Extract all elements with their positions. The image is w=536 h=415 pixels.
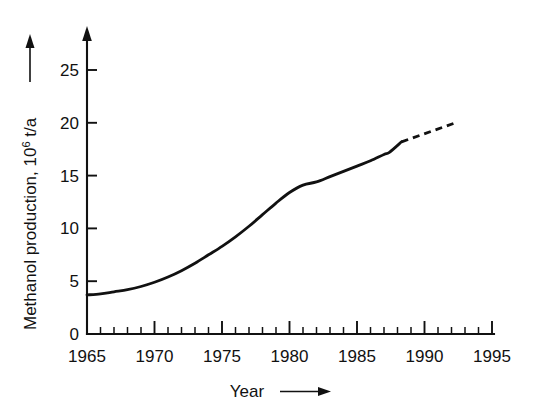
x-tick-label-1990: 1990 (406, 347, 444, 366)
y-tick-label-20: 20 (60, 114, 79, 133)
x-axis-title-arrow-icon (318, 387, 331, 396)
x-tick-label-1985: 1985 (338, 347, 376, 366)
x-tick-label-1970: 1970 (136, 347, 174, 366)
y-tick-label-25: 25 (60, 61, 79, 80)
x-tick-label-1995: 1995 (473, 347, 511, 366)
y-axis-title-unit: t/a (21, 117, 40, 141)
data-line-projected (402, 123, 456, 142)
chart-canvas: 0 5 10 15 20 25 1965 1970 1975 1980 1985… (0, 0, 536, 415)
y-axis-title: Methanol production, 106 t/a (20, 117, 40, 330)
x-axis-title: Year (230, 382, 265, 401)
data-line-actual (87, 142, 402, 295)
x-axis-ticks (87, 321, 492, 334)
y-axis-title-base: Methanol production, 10 (21, 148, 40, 330)
x-tick-label-1975: 1975 (203, 347, 241, 366)
y-axis-title-group: Methanol production, 106 t/a (20, 34, 40, 330)
y-tick-label-0: 0 (70, 325, 79, 344)
x-axis-title-group: Year (230, 382, 331, 401)
y-axis-arrow-icon (82, 26, 92, 41)
y-axis-tick-labels: 0 5 10 15 20 25 (60, 61, 79, 344)
y-axis-title-arrow-icon (26, 34, 35, 48)
y-axis (82, 26, 92, 334)
x-tick-label-1980: 1980 (271, 347, 309, 366)
y-tick-label-10: 10 (60, 219, 79, 238)
x-tick-label-1965: 1965 (68, 347, 106, 366)
x-axis-tick-labels: 1965 1970 1975 1980 1985 1990 1995 (68, 347, 511, 366)
y-tick-label-5: 5 (70, 272, 79, 291)
methanol-production-chart-figure: 0 5 10 15 20 25 1965 1970 1975 1980 1985… (0, 0, 536, 415)
y-tick-label-15: 15 (60, 167, 79, 186)
